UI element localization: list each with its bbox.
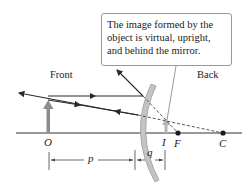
back-label: Back bbox=[197, 69, 219, 80]
callout-pointer bbox=[167, 66, 176, 120]
center-label: C bbox=[219, 137, 226, 149]
ray-reflected-back bbox=[115, 111, 138, 115]
callout-box: The image formed by the object is virtua… bbox=[101, 13, 232, 66]
object-distance-label: p bbox=[88, 152, 94, 164]
callout-line: The image formed by the bbox=[107, 18, 226, 31]
focal-point-dot bbox=[175, 130, 180, 135]
ray-dashed-to-focal bbox=[143, 96, 178, 133]
image-distance-label: q bbox=[147, 146, 153, 158]
focal-point-label: F bbox=[174, 137, 181, 149]
callout-line: object is virtual, upright, bbox=[107, 31, 226, 44]
object-arrow bbox=[43, 100, 54, 133]
ray-toward-center-incident bbox=[48, 100, 80, 105]
image-label: I bbox=[162, 136, 166, 148]
ray-reflected-up bbox=[117, 70, 143, 96]
object-label: O bbox=[44, 136, 52, 148]
callout-line: and behind the mirror. bbox=[107, 44, 226, 57]
front-label: Front bbox=[50, 69, 73, 80]
center-dot bbox=[220, 130, 225, 135]
ray-dashed-to-center bbox=[138, 115, 223, 133]
